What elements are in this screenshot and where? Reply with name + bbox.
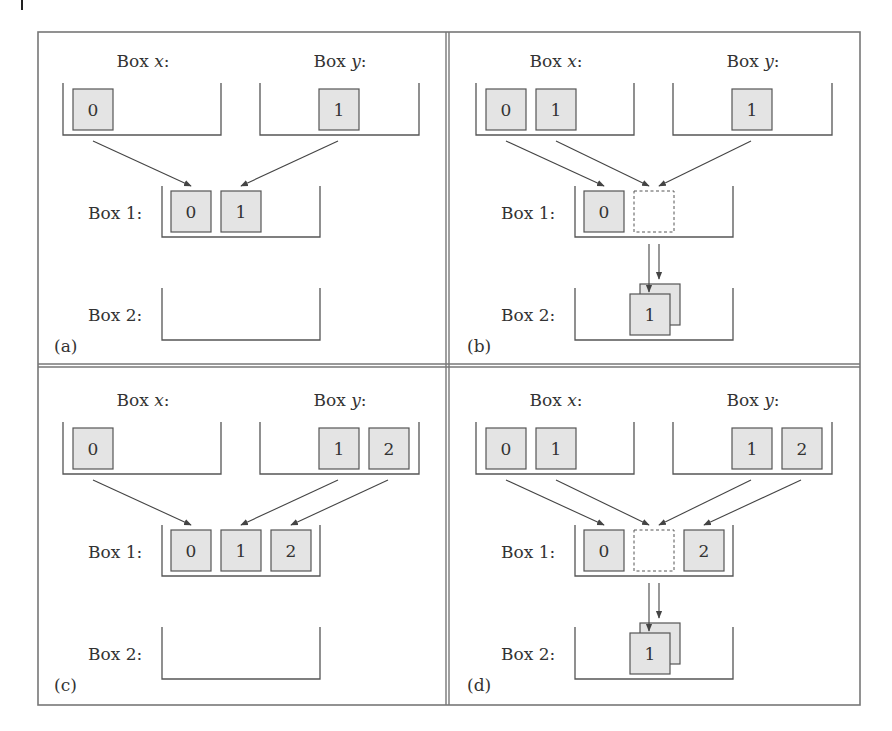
arrow bbox=[704, 480, 801, 525]
box-y-cell: 1 bbox=[732, 428, 772, 469]
cell-value: 1 bbox=[334, 439, 345, 459]
cell-value: 2 bbox=[286, 541, 297, 561]
box1-label: Box 1: bbox=[501, 542, 555, 562]
cell-value: 2 bbox=[699, 541, 710, 561]
panel-b: Box x:Box y:011Box 1:0Box 2:1(b) bbox=[467, 51, 832, 356]
box-y-label: Box y: bbox=[726, 51, 779, 71]
box1-label: Box 1: bbox=[88, 203, 142, 223]
box2-label: Box 2: bbox=[88, 644, 142, 664]
arrow bbox=[556, 141, 649, 186]
box-x-cell: 1 bbox=[536, 428, 576, 469]
box1-empty-slot bbox=[634, 191, 674, 232]
panel-tag: (d) bbox=[467, 675, 491, 695]
buffer-diagram-figure: Box x:Box y:01Box 1:01Box 2:(a)Box x:Box… bbox=[0, 0, 892, 731]
box2-label: Box 2: bbox=[501, 644, 555, 664]
arrow bbox=[291, 480, 388, 525]
box-y-cell: 2 bbox=[369, 428, 409, 469]
box1-cell: 0 bbox=[171, 530, 211, 571]
panel-c: Box x:Box y:012Box 1:012Box 2:(c) bbox=[54, 390, 419, 695]
cell-value: 0 bbox=[501, 100, 512, 120]
box-y-label: Box y: bbox=[313, 390, 366, 410]
cell-value: 2 bbox=[797, 439, 808, 459]
cell-value: 0 bbox=[88, 439, 99, 459]
panel-a: Box x:Box y:01Box 1:01Box 2:(a) bbox=[54, 51, 419, 356]
cell-value: 0 bbox=[599, 541, 610, 561]
cell-value: 0 bbox=[186, 202, 197, 222]
cell-value: 1 bbox=[747, 439, 758, 459]
box-y-label: Box y: bbox=[313, 51, 366, 71]
cell-value: 0 bbox=[88, 100, 99, 120]
panels: Box x:Box y:01Box 1:01Box 2:(a)Box x:Box… bbox=[54, 51, 832, 695]
cell-value: 1 bbox=[645, 644, 656, 664]
cell-value: 0 bbox=[599, 202, 610, 222]
box-y-cell: 1 bbox=[319, 89, 359, 130]
panel-d: Box x:Box y:0112Box 1:02Box 2:1(d) bbox=[467, 390, 832, 695]
box-y-cell: 2 bbox=[782, 428, 822, 469]
cell-value: 1 bbox=[334, 100, 345, 120]
box-x-cell: 1 bbox=[536, 89, 576, 130]
panel-tag: (c) bbox=[54, 675, 77, 695]
box-x-cell: 0 bbox=[486, 428, 526, 469]
arrow bbox=[241, 141, 338, 186]
cell-value: 1 bbox=[236, 202, 247, 222]
cell-value: 1 bbox=[645, 305, 656, 325]
box1-cell: 1 bbox=[221, 530, 261, 571]
box-x-label: Box x: bbox=[116, 51, 169, 71]
box1-cell: 2 bbox=[271, 530, 311, 571]
box-x-label: Box x: bbox=[529, 51, 582, 71]
box-x-label: Box x: bbox=[529, 390, 582, 410]
box2-stack-front: 1 bbox=[630, 633, 670, 674]
figure-frame bbox=[38, 32, 860, 705]
box1-empty-slot bbox=[634, 530, 674, 571]
arrow bbox=[659, 480, 751, 525]
cell-value: 1 bbox=[747, 100, 758, 120]
arrow bbox=[506, 480, 604, 525]
box-y-cell: 1 bbox=[319, 428, 359, 469]
cell-value: 0 bbox=[186, 541, 197, 561]
box-x-cell: 0 bbox=[73, 89, 113, 130]
cell-value: 1 bbox=[236, 541, 247, 561]
box1-cell: 1 bbox=[221, 191, 261, 232]
box1-cell: 0 bbox=[171, 191, 211, 232]
box2-stack-front: 1 bbox=[630, 294, 670, 335]
arrow bbox=[556, 480, 649, 525]
box-x-cell: 0 bbox=[73, 428, 113, 469]
box1-cell: 0 bbox=[584, 530, 624, 571]
box2-label: Box 2: bbox=[501, 305, 555, 325]
box2-label: Box 2: bbox=[88, 305, 142, 325]
box-y-cell: 1 bbox=[732, 89, 772, 130]
box1-cell: 2 bbox=[684, 530, 724, 571]
cell-value: 1 bbox=[551, 439, 562, 459]
arrow bbox=[93, 480, 191, 525]
arrow bbox=[241, 480, 338, 525]
box-x-cell: 0 bbox=[486, 89, 526, 130]
box2-bucket bbox=[162, 627, 320, 679]
panel-tag: (b) bbox=[467, 336, 491, 356]
cell-value: 1 bbox=[551, 100, 562, 120]
box1-label: Box 1: bbox=[88, 542, 142, 562]
arrow bbox=[93, 141, 191, 186]
arrow bbox=[506, 141, 604, 186]
box1-label: Box 1: bbox=[501, 203, 555, 223]
cell-value: 0 bbox=[501, 439, 512, 459]
panel-tag: (a) bbox=[54, 336, 77, 356]
box1-cell: 0 bbox=[584, 191, 624, 232]
arrow bbox=[659, 141, 751, 186]
box2-bucket bbox=[162, 288, 320, 340]
box-y-label: Box y: bbox=[726, 390, 779, 410]
box-x-label: Box x: bbox=[116, 390, 169, 410]
cell-value: 2 bbox=[384, 439, 395, 459]
